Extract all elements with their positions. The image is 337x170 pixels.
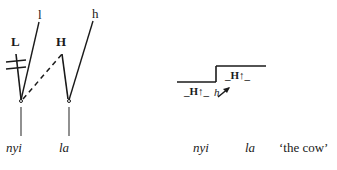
association-line-H-to-la <box>62 54 68 99</box>
delink-strike-lower <box>6 67 26 69</box>
dashed-spreading-line-nyi-to-H <box>23 54 62 99</box>
diagram-lines <box>0 0 337 170</box>
figure-canvas: l h L H nyi la _H↑_ _H↑_ h nyi la ‘the c… <box>0 0 337 170</box>
line-h-to-la <box>69 21 93 100</box>
delink-strike-upper <box>6 60 26 62</box>
